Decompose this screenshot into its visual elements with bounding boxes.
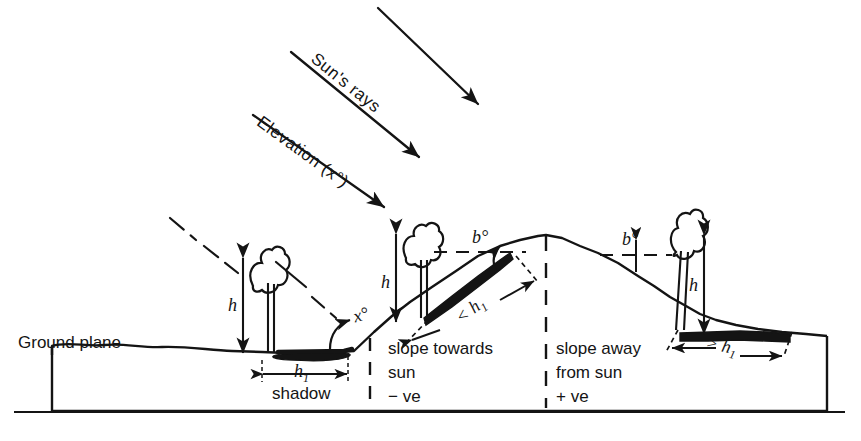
diagram-canvas	[0, 0, 861, 441]
angle-slope-right-label: b°	[622, 230, 638, 248]
slope-towards-sun-line2: sun	[388, 364, 415, 381]
height-label-uphill: h	[381, 273, 390, 291]
tree-trunk-downhill	[676, 251, 688, 330]
slope-away-sun-sign: + ve	[556, 388, 589, 405]
shadow-length-flat-label: h1	[294, 362, 309, 384]
slope-towards-sun-line1: slope towards	[388, 340, 493, 357]
slope-away-sun-line2: from sun	[556, 364, 622, 381]
terrain-outline	[52, 235, 827, 411]
shadow-length-flat-subscript: 1	[303, 371, 309, 385]
tree-flat-ground	[250, 247, 289, 352]
angle-slope-left-label: b°	[472, 228, 488, 246]
shadow-elevation-diagram: Sun's rays Elevation (x°) Ground plane s…	[0, 0, 861, 441]
angle-arc-elevation	[330, 320, 350, 349]
ground-plane-label: Ground plane	[18, 334, 121, 351]
sun-ray-arrow-1	[378, 8, 478, 104]
tree-canopy-downhill	[671, 210, 708, 259]
sun-ray-arrow-2	[291, 52, 419, 157]
shadow-streak-flat	[278, 349, 352, 352]
tree-trunk-uphill	[421, 260, 427, 318]
shadow-length-flat-symbol: h	[294, 361, 303, 381]
slope-away-sun-line1: slope away	[556, 340, 641, 357]
height-label-flat: h	[228, 296, 237, 314]
tree-canopy-uphill	[404, 223, 444, 267]
height-label-downhill: h	[689, 276, 698, 294]
slope-towards-sun-sign: − ve	[388, 388, 421, 405]
tree-downhill	[671, 210, 708, 330]
shadow-label: shadow	[272, 385, 331, 402]
